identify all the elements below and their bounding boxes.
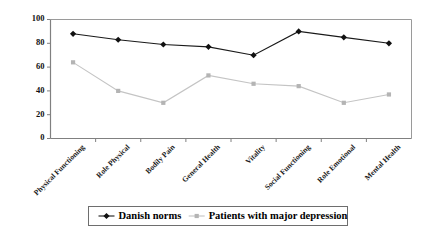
data-point — [342, 101, 346, 105]
y-axis-tick-label: 100 — [32, 13, 45, 23]
legend-marker-symbol — [195, 214, 199, 218]
y-axis-tick-label: 80 — [36, 37, 45, 47]
legend-items: Danish normsPatients with major depressi… — [99, 210, 348, 221]
chart-legend: Danish normsPatients with major depressi… — [89, 207, 348, 226]
y-axis-tick-label: 40 — [36, 85, 45, 95]
y-axis-tick-label: 20 — [36, 109, 45, 119]
data-point — [297, 84, 301, 88]
data-point — [251, 82, 255, 86]
sf36-health-profile-chart: 020406080100 Physical FunctioningRole Ph… — [0, 0, 426, 235]
data-point — [161, 101, 165, 105]
data-point — [206, 73, 210, 77]
chart-container: 020406080100 Physical FunctioningRole Ph… — [0, 0, 426, 235]
data-point — [387, 92, 391, 96]
y-axis-tick-label: 0 — [40, 132, 44, 142]
data-point — [71, 60, 75, 64]
chart-background — [0, 0, 426, 235]
data-point — [116, 89, 120, 93]
legend-item-label: Patients with major depression — [209, 210, 348, 221]
y-axis-tick-label: 60 — [36, 61, 45, 71]
legend-item-label: Danish norms — [119, 210, 182, 221]
